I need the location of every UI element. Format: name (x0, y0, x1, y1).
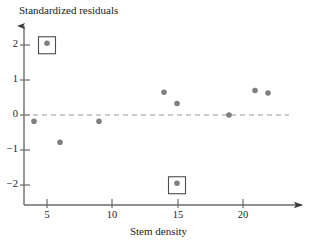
scatter-plot-figure: Standardized residuals (0, 0, 317, 244)
x-axis-ticks (47, 199, 243, 208)
y-tick-label-neg1: −1 (2, 143, 18, 154)
data-points-group (31, 40, 271, 186)
data-point (161, 89, 167, 95)
data-point-highlighted (44, 40, 50, 46)
data-point (31, 119, 37, 125)
x-tick-label-10: 10 (101, 209, 123, 220)
data-point (265, 90, 271, 96)
data-point (57, 140, 63, 146)
data-point (96, 119, 102, 125)
y-tick-label-0: 0 (2, 108, 18, 119)
y-tick-label-1: 1 (2, 73, 18, 84)
x-tick-label-20: 20 (232, 209, 254, 220)
x-axis-title: Stem density (0, 225, 317, 237)
x-tick-label-15: 15 (167, 209, 189, 220)
y-tick-label-2: 2 (2, 38, 18, 49)
data-point (226, 112, 232, 118)
data-point-highlighted (174, 180, 180, 186)
data-point (174, 101, 180, 107)
plot-canvas (0, 0, 317, 244)
y-tick-label-neg2: −2 (2, 178, 18, 189)
x-tick-label-5: 5 (36, 209, 58, 220)
data-point (252, 88, 258, 94)
